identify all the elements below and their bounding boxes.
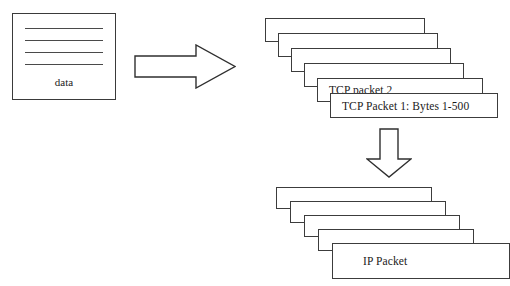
data-rule-4 <box>25 64 103 65</box>
arrow-right-icon <box>134 44 236 89</box>
diagram-canvas: data TCP packet 2 TCP Packet 1: Bytes 1-… <box>0 0 510 286</box>
tcp-packet-1-label: TCP Packet 1: Bytes 1-500 <box>331 99 469 113</box>
data-rule-3 <box>25 52 103 53</box>
ip-packet-stack: IP Packet <box>276 187 510 279</box>
data-rule-2 <box>25 40 103 41</box>
ip-packet-1[interactable]: IP Packet <box>332 243 510 279</box>
data-document: data <box>12 13 116 100</box>
arrow-down-icon <box>366 128 412 178</box>
data-document-label: data <box>13 76 115 89</box>
ip-packet-1-label: IP Packet <box>333 254 407 268</box>
tcp-packet-1[interactable]: TCP Packet 1: Bytes 1-500 <box>330 93 498 118</box>
tcp-packet-stack: TCP packet 2 TCP Packet 1: Bytes 1-500 <box>265 18 510 118</box>
data-rule-1 <box>25 28 103 29</box>
